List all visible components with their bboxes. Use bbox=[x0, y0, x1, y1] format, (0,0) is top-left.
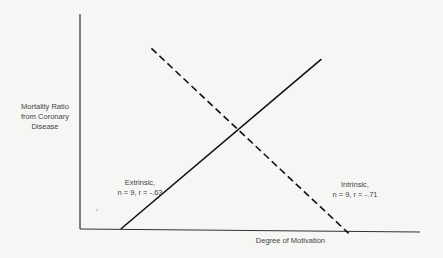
x-axis bbox=[80, 229, 420, 232]
y-axis-label: Mortality Ratio from Coronary Disease bbox=[14, 102, 76, 132]
intrinsic-annotation: Intrinsic, n = 9, r = -.71 bbox=[305, 180, 405, 200]
x-axis-label: Degree of Motivation bbox=[205, 236, 325, 245]
annotation-line: Extrinsic, bbox=[100, 178, 180, 188]
intrinsic-line bbox=[151, 48, 348, 233]
extrinsic-line bbox=[121, 59, 322, 229]
y-axis-label-line: from Coronary bbox=[14, 112, 76, 122]
stray-mark bbox=[96, 209, 98, 211]
annotation-line: Intrinsic, bbox=[305, 180, 405, 190]
y-axis-label-line: Disease bbox=[14, 122, 76, 132]
y-axis-label-line: Mortality Ratio bbox=[14, 102, 76, 112]
annotation-line: n = 9, r = -.71 bbox=[305, 190, 405, 200]
extrinsic-annotation: Extrinsic, n = 9, r = -.63 bbox=[100, 178, 180, 198]
annotation-line: n = 9, r = -.63 bbox=[100, 188, 180, 198]
